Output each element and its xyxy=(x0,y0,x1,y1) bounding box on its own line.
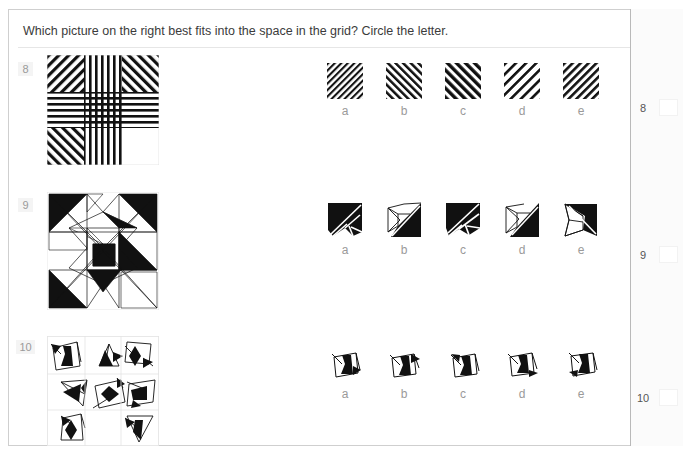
option-10-a-figure xyxy=(327,346,363,382)
answer-box-8[interactable] xyxy=(659,99,678,116)
option-8-b-label: b xyxy=(386,104,422,118)
option-8-e-label: e xyxy=(563,104,599,118)
question-number-8: 8 xyxy=(18,62,33,76)
option-9-e-figure xyxy=(563,202,599,238)
option-8-d[interactable]: d xyxy=(504,63,540,118)
option-10-c-figure xyxy=(445,346,481,382)
option-8-a[interactable]: a xyxy=(327,63,363,118)
option-8-e-figure xyxy=(563,63,599,99)
option-9-b-label: b xyxy=(386,243,422,257)
answer-column: 8 9 10 xyxy=(630,9,683,446)
option-8-e[interactable]: e xyxy=(563,63,599,118)
answer-box-10[interactable] xyxy=(659,389,678,406)
question-10-grid xyxy=(47,336,159,446)
option-9-a-label: a xyxy=(327,243,363,257)
answer-row-10-number: 10 xyxy=(637,392,649,404)
answer-row-10: 10 xyxy=(631,392,683,410)
option-9-d-label: d xyxy=(504,243,540,257)
answer-box-9[interactable] xyxy=(659,246,678,263)
option-9-d-figure xyxy=(504,202,540,238)
answer-row-9: 9 xyxy=(631,249,683,267)
option-10-c[interactable]: c xyxy=(445,346,481,401)
option-10-a-label: a xyxy=(327,387,363,401)
option-10-d-label: d xyxy=(504,387,540,401)
worksheet-page: Which picture on the right best fits int… xyxy=(0,0,683,454)
option-10-e-label: e xyxy=(563,387,599,401)
option-10-d[interactable]: d xyxy=(504,346,540,401)
option-9-e[interactable]: e xyxy=(563,202,599,257)
question-prompt: Which picture on the right best fits int… xyxy=(23,24,448,38)
option-10-a[interactable]: a xyxy=(327,346,363,401)
option-8-d-figure xyxy=(504,63,540,99)
option-8-b-figure xyxy=(386,63,422,99)
option-8-d-label: d xyxy=(504,104,540,118)
option-8-c-label: c xyxy=(445,104,481,118)
option-10-b[interactable]: b xyxy=(386,346,422,401)
option-9-a-figure xyxy=(327,202,363,238)
option-8-a-figure xyxy=(327,63,363,99)
option-10-e-figure xyxy=(563,346,599,382)
question-number-10: 10 xyxy=(16,340,35,354)
question-8-grid xyxy=(47,55,159,165)
option-10-e[interactable]: e xyxy=(563,346,599,401)
option-9-b-figure xyxy=(386,202,422,238)
question-number-9: 9 xyxy=(18,198,33,212)
option-9-b[interactable]: b xyxy=(386,202,422,257)
option-10-b-label: b xyxy=(386,387,422,401)
option-10-c-label: c xyxy=(445,387,481,401)
option-8-c-figure xyxy=(445,63,481,99)
option-9-c[interactable]: c xyxy=(445,202,481,257)
option-8-c[interactable]: c xyxy=(445,63,481,118)
worksheet-sheet: Which picture on the right best fits int… xyxy=(8,9,675,446)
option-10-d-figure xyxy=(504,346,540,382)
option-9-c-label: c xyxy=(445,243,481,257)
option-9-c-figure xyxy=(445,202,481,238)
prompt-divider xyxy=(18,47,630,48)
option-10-b-figure xyxy=(386,346,422,382)
option-9-a[interactable]: a xyxy=(327,202,363,257)
option-8-a-label: a xyxy=(327,104,363,118)
option-9-e-label: e xyxy=(563,243,599,257)
option-9-d[interactable]: d xyxy=(504,202,540,257)
answer-row-8-number: 8 xyxy=(640,102,646,114)
option-8-b[interactable]: b xyxy=(386,63,422,118)
top-cut-off-strip xyxy=(0,0,683,9)
answer-row-8: 8 xyxy=(631,102,683,120)
question-9-grid xyxy=(47,192,159,310)
answer-row-9-number: 9 xyxy=(640,249,646,261)
